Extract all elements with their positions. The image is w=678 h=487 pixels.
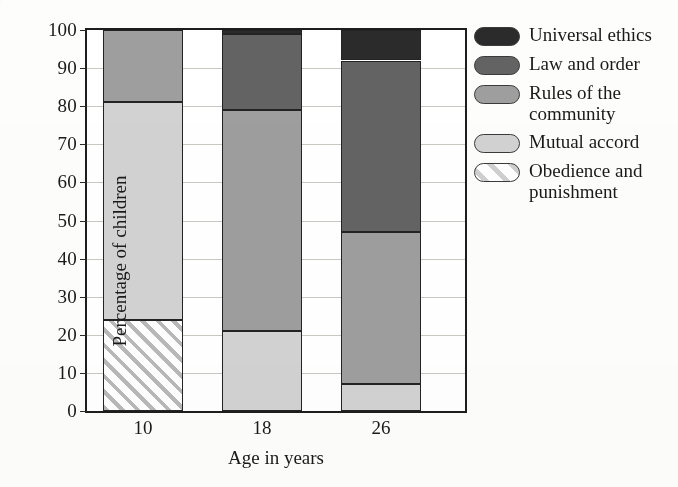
legend-item[interactable]: Law and order [474,53,674,75]
bar-segment[interactable] [103,30,183,102]
bar-segment[interactable] [222,110,302,331]
y-axis-tick [80,144,87,145]
y-axis-title: Percentage of children [109,146,131,376]
bar-18[interactable]: 18 [222,30,302,411]
y-axis-tick-label: 40 [58,248,77,270]
y-axis-tick-label: 60 [58,171,77,193]
legend-label: Rules of the community [529,82,621,124]
x-axis-tick-label: 10 [134,417,153,439]
swatch-obedience-and-punishment [474,163,520,182]
x-axis-tick-label: 26 [372,417,391,439]
bar-group: 101826 [87,30,465,411]
y-axis-tick-label: 50 [58,210,77,232]
y-axis-tick-label: 100 [48,19,77,41]
y-axis-tick [80,68,87,69]
bar-segment[interactable] [222,331,302,411]
y-axis-tick [80,30,87,31]
legend-item[interactable]: Universal ethics [474,24,674,46]
bar-segment[interactable] [341,232,421,384]
swatch-universal-ethics [474,27,520,46]
swatch-law-and-order [474,56,520,75]
y-axis-tick [80,259,87,260]
swatch-rules-of-the-community [474,85,520,104]
bar-segment[interactable] [222,34,302,110]
y-axis-tick-label: 10 [58,362,77,384]
swatch-mutual-accord [474,134,520,153]
y-axis-tick [80,335,87,336]
chart-legend: Universal ethicsLaw and orderRules of th… [474,24,674,209]
bar-26[interactable]: 26 [341,30,421,411]
y-axis-tick-label: 70 [58,133,77,155]
x-axis-tick-label: 18 [253,417,272,439]
bar-segment[interactable] [341,384,421,411]
y-axis-tick-label: 80 [58,95,77,117]
stacked-bar-chart: 0102030405060708090100 101826 Percentage… [0,0,678,487]
legend-item[interactable]: Mutual accord [474,131,674,153]
legend-label: Law and order [529,53,640,74]
y-axis-tick-label: 20 [58,324,77,346]
y-axis-tick [80,297,87,298]
bar-segment[interactable] [341,61,421,232]
legend-label: Mutual accord [529,131,639,152]
x-axis-title: Age in years [85,447,467,469]
plot-area: 0102030405060708090100 101826 Percentage… [85,28,467,413]
y-axis-tick-label: 0 [67,400,77,422]
y-axis-tick [80,182,87,183]
y-axis-tick [80,221,87,222]
y-axis-tick [80,106,87,107]
y-axis-tick-label: 30 [58,286,77,308]
y-axis-tick [80,411,87,412]
y-axis-tick-label: 90 [58,57,77,79]
y-axis-tick [80,373,87,374]
legend-item[interactable]: Obedience and punishment [474,160,674,202]
legend-label: Obedience and punishment [529,160,642,202]
legend-item[interactable]: Rules of the community [474,82,674,124]
bar-segment[interactable] [222,30,302,34]
bar-segment[interactable] [341,30,421,60]
legend-label: Universal ethics [529,24,652,45]
